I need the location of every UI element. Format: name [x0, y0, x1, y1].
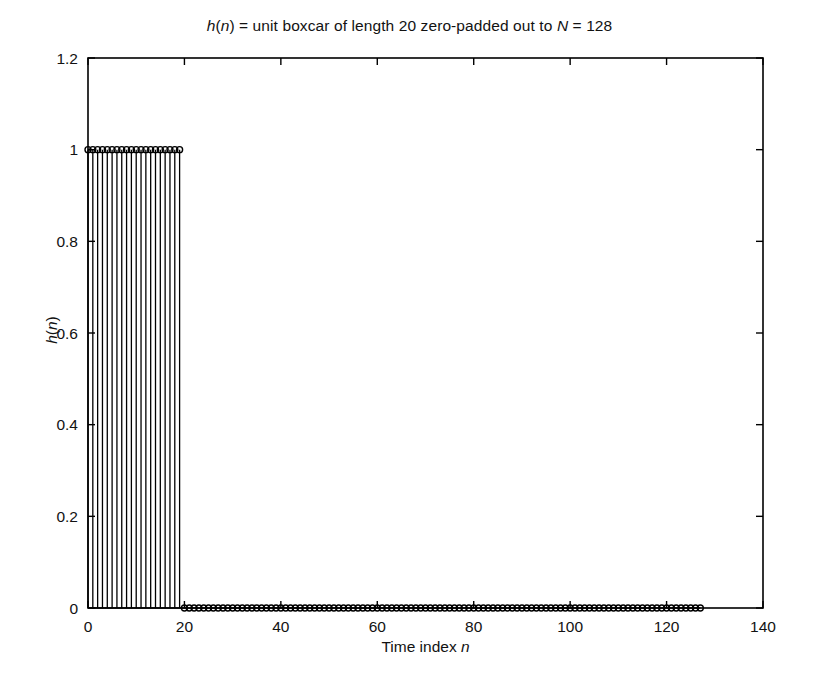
svg-text:0: 0: [84, 618, 93, 635]
x-tick-labels: 020406080100120140: [84, 618, 777, 635]
stem-plot: 020406080100120140 00.20.40.60.811.2: [0, 0, 819, 677]
svg-text:60: 60: [369, 618, 387, 635]
svg-text:80: 80: [465, 618, 483, 635]
axes-box: [88, 58, 763, 608]
svg-text:100: 100: [557, 618, 583, 635]
svg-text:140: 140: [750, 618, 776, 635]
svg-text:20: 20: [176, 618, 194, 635]
svg-text:0.4: 0.4: [56, 416, 78, 433]
svg-text:40: 40: [272, 618, 290, 635]
figure-canvas: h(n) = unit boxcar of length 20 zero-pad…: [0, 0, 819, 677]
stem-series: [85, 147, 703, 611]
svg-text:0: 0: [69, 600, 78, 617]
y-axis-label-text: h(n): [43, 301, 61, 359]
x-axis-label: Time index n: [88, 638, 763, 656]
svg-text:1: 1: [69, 141, 78, 158]
svg-text:1.2: 1.2: [56, 50, 78, 67]
svg-text:0.2: 0.2: [56, 508, 78, 525]
svg-text:0.8: 0.8: [56, 233, 78, 250]
svg-text:120: 120: [654, 618, 680, 635]
y-axis-label: h(n): [26, 307, 78, 359]
